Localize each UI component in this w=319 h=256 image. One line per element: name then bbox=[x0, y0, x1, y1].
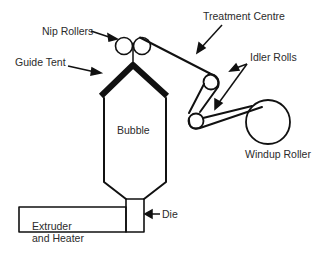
arrow-guide-tent-head bbox=[91, 68, 101, 75]
nip-roller-left bbox=[116, 38, 133, 55]
die-block bbox=[126, 199, 144, 232]
arrow-treatment-centre bbox=[201, 25, 222, 48]
label-idler-rolls: Idler Rolls bbox=[250, 51, 297, 63]
arrow-nip-rollers-head bbox=[108, 34, 117, 41]
label-extruder: Extruder bbox=[32, 220, 72, 232]
label-windup-roller: Windup Roller bbox=[245, 148, 311, 160]
label-extruder-heater: and Heater bbox=[32, 232, 84, 244]
label-nip-rollers: Nip Rollers bbox=[42, 25, 93, 37]
blown-film-diagram: Nip Rollers Treatment Centre Guide Tent … bbox=[0, 0, 319, 256]
arrow-idler-rolls-1-head bbox=[230, 64, 239, 71]
guide-tent bbox=[101, 65, 167, 96]
label-treatment-centre: Treatment Centre bbox=[203, 10, 285, 22]
nip-roller-right bbox=[134, 38, 151, 55]
label-guide-tent: Guide Tent bbox=[15, 56, 66, 68]
windup-roller bbox=[246, 100, 290, 144]
diagram-canvas bbox=[0, 0, 319, 256]
arrow-die-head bbox=[145, 210, 152, 218]
label-die: Die bbox=[162, 208, 178, 220]
label-bubble: Bubble bbox=[117, 124, 150, 136]
bubble-outline bbox=[104, 98, 166, 199]
